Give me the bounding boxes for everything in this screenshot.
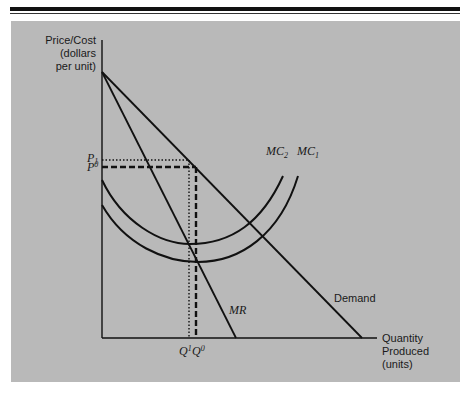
demand-curve	[102, 72, 362, 338]
x-axis-label-line-3: (units)	[382, 358, 413, 370]
demand-label: Demand	[334, 292, 376, 304]
q0-label: Q0	[192, 344, 205, 358]
mr-label: MR	[228, 303, 247, 317]
mc2-curve	[102, 176, 283, 244]
x-axis-label-line-2: Produced	[382, 345, 429, 357]
y-axis-label-line-3: per unit)	[56, 60, 96, 72]
mc1-label: MC1	[296, 144, 319, 160]
y-axis-label-line-1: Price/Cost	[45, 34, 96, 46]
q1-label: Q1	[179, 344, 192, 358]
x-axis-label-line-1: Quantity	[382, 332, 423, 344]
mc2-label: MC2	[265, 144, 288, 160]
p0-label: P0	[86, 160, 98, 174]
marginal-revenue-curve	[102, 72, 236, 338]
y-axis-label-line-2: (dollars	[60, 47, 97, 59]
monopoly-cost-diagram: Price/Cost (dollars per unit) Quantity P…	[0, 0, 470, 406]
